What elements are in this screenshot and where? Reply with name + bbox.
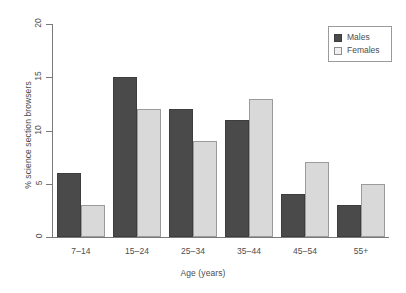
y-tick-label-15: 15 [0,71,42,81]
bar-males-1 [113,77,137,237]
x-axis-line [52,237,389,238]
bar-females-0 [81,205,105,237]
legend: Males Females [328,26,392,62]
legend-item-males: Males [334,32,386,43]
x-axis-label: Age (years) [0,268,406,278]
bar-males-5 [337,205,361,237]
bar-males-4 [281,194,305,237]
y-tick-label-20: 20 [0,18,42,28]
legend-swatch-males-icon [334,34,342,42]
x-tick-label-5: 55+ [327,246,395,256]
y-axis-label: % science section browsers [23,35,33,235]
bar-males-0 [57,173,81,237]
bar-females-5 [361,184,385,237]
legend-label-males: Males [347,33,370,42]
legend-label-females: Females [347,46,380,55]
y-tick-10 [46,131,52,132]
y-tick-5 [46,184,52,185]
y-tick-20 [46,24,52,25]
bar-females-3 [249,99,273,237]
y-tick-15 [46,77,52,78]
legend-item-females: Females [334,45,386,56]
legend-swatch-females-icon [334,47,342,55]
bar-males-3 [225,120,249,237]
y-axis-line [52,24,53,238]
bar-females-4 [305,162,329,237]
bar-chart: % science section browsers 05101520 7–14… [0,0,406,293]
y-tick-0 [46,237,52,238]
bar-females-1 [137,109,161,237]
y-tick-label-5: 5 [0,178,42,188]
y-tick-label-0: 0 [0,231,42,241]
bar-males-2 [169,109,193,237]
y-tick-label-10: 10 [0,125,42,135]
bar-females-2 [193,141,217,237]
